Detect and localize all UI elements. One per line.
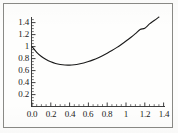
y-tick-label-1: 1 [7,42,29,51]
x-tick-label-1: 1 [116,110,136,119]
y-tick-label-0.8: 0.8 [7,54,29,63]
y-tick-label-0.4: 0.4 [7,78,29,87]
x-tick-label-0.8: 0.8 [97,110,117,119]
x-tick-label-0.2: 0.2 [41,110,61,119]
x-tick-label-0.4: 0.4 [60,110,80,119]
y-tick-label-1.4: 1.4 [7,18,29,27]
y-tick-label-1.2: 1.2 [7,30,29,39]
screenshot-root: 1.4 1.2 1 0.8 0.6 0.4 0.2 0.0 0.2 0.4 0.… [0,0,178,133]
x-tick-label-0.0: 0.0 [22,110,42,119]
x-tick-label-0.6: 0.6 [78,110,98,119]
x-tick-label-1.2: 1.2 [135,110,155,119]
plot-area: 1.4 1.2 1 0.8 0.6 0.4 0.2 0.0 0.2 0.4 0.… [0,0,178,133]
y-axis-major-ticks [32,23,36,95]
x-tick-label-1.4: 1.4 [154,110,174,119]
y-tick-label-0.6: 0.6 [7,66,29,75]
data-series-curve [32,17,159,65]
y-tick-label-0.2: 0.2 [7,90,29,99]
